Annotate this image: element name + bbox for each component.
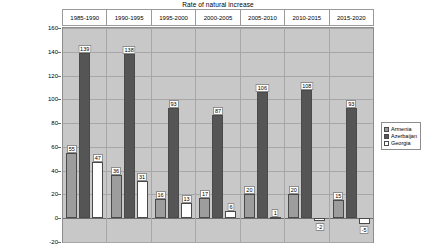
bar-georgia[interactable] [181,203,192,218]
y-axis-tick-mark [58,242,61,243]
bar-value-label: 1 [272,209,279,217]
y-axis-tick-mark [58,147,61,148]
y-axis-tick-label: 120 [18,72,58,78]
y-axis-tick-label: 0 [18,215,58,221]
bar-value-label: 6 [227,203,234,211]
gridline [63,242,373,243]
bar-slot: 138 [124,28,135,242]
y-axis-tick-mark [58,76,61,77]
bar-value-label: 16 [155,191,165,199]
bar-slot: 16 [155,28,166,242]
bar-slot: 106 [257,28,268,242]
y-axis-tick-label: 40 [18,167,58,173]
bar-slot: 31 [137,28,148,242]
y-axis-tick-mark [58,171,61,172]
legend-swatch-icon [384,127,389,132]
y-axis-tick-mark [58,194,61,195]
bar-armenia[interactable] [288,194,299,218]
bar-armenia[interactable] [244,194,255,218]
bar-group: 20108-2 [285,28,329,242]
bar-slot: 108 [301,28,312,242]
y-axis-tick-mark [58,52,61,53]
bar-slot: -2 [314,28,325,242]
y-axis-tick-label: 60 [18,143,58,149]
chart-container: Rate of natural increase 1985-19901990-1… [0,0,440,250]
bar-georgia[interactable] [270,217,281,219]
legend-label: Armenia [391,126,411,132]
bar-groups: 551394736138311693131787620106120108-215… [63,28,373,242]
bar-group: 3613831 [107,28,151,242]
y-axis-tick-mark [58,123,61,124]
y-axis-tick-label: 100 [18,96,58,102]
bar-group-bars: 169313 [152,28,195,242]
bar-georgia[interactable] [314,218,325,220]
y-axis-tick-mark [58,99,61,100]
bar-azerbaijan[interactable] [301,90,312,218]
bar-value-label: 47 [93,154,103,162]
bar-slot: 55 [66,28,77,242]
bar-armenia[interactable] [111,175,122,218]
bar-slot: 20 [244,28,255,242]
bar-group-bars: 20108-2 [285,28,328,242]
plot-area: 551394736138311693131787620106120108-215… [62,27,374,243]
bar-group-bars: 1593-5 [330,28,373,242]
bar-georgia[interactable] [137,181,148,218]
bar-value-label: 93 [168,100,178,108]
legend-item-armenia[interactable]: Armenia [384,126,417,132]
bar-georgia[interactable] [359,218,370,224]
bar-azerbaijan[interactable] [124,54,135,218]
bar-armenia[interactable] [199,198,210,218]
bar-value-label: 106 [256,84,269,92]
y-axis-tick-label: 160 [18,25,58,31]
bar-group: 5513947 [63,28,107,242]
bar-georgia[interactable] [92,162,103,218]
bar-group-bars: 201061 [241,28,284,242]
bar-group-bars: 5513947 [63,28,106,242]
bar-group-bars: 3613831 [107,28,150,242]
bar-value-label: 138 [123,46,136,54]
bar-value-label: 31 [137,173,147,181]
period-header-cell: 2005-2010 [241,10,285,25]
legend-label: Georgia [391,140,411,146]
bar-value-label: -2 [315,223,324,231]
bar-armenia[interactable] [333,200,344,218]
bar-value-label: -5 [360,226,369,234]
y-axis-tick-label: 140 [18,48,58,54]
y-axis-tick-label: -20 [18,239,58,245]
legend-item-azerbaijan[interactable]: Azerbaijan [384,133,417,139]
bar-slot: 20 [288,28,299,242]
legend-item-georgia[interactable]: Georgia [384,140,417,146]
legend-swatch-icon [384,141,389,146]
bar-value-label: 108 [300,82,313,90]
bar-azerbaijan[interactable] [257,92,268,218]
bar-group-bars: 17876 [196,28,239,242]
bar-slot: 87 [212,28,223,242]
y-axis-tick-mark [58,218,61,219]
bar-armenia[interactable] [155,199,166,218]
bar-azerbaijan[interactable] [346,108,357,219]
bar-slot: 47 [92,28,103,242]
bar-azerbaijan[interactable] [79,53,90,218]
bar-azerbaijan[interactable] [212,115,223,218]
y-axis-tick-mark [58,28,61,29]
bar-group: 201061 [241,28,285,242]
bar-slot: 15 [333,28,344,242]
bar-slot: 13 [181,28,192,242]
period-header-cell: 2000-2005 [196,10,240,25]
period-header-cell: 1995-2000 [152,10,196,25]
bar-slot: 93 [168,28,179,242]
chart-title: Rate of natural increase [62,1,374,8]
bar-slot: -5 [359,28,370,242]
y-axis-tick-label: 20 [18,191,58,197]
legend-swatch-icon [384,134,389,139]
bar-georgia[interactable] [225,211,236,218]
bar-value-label: 87 [213,107,223,115]
period-header-cell: 2010-2015 [285,10,329,25]
bar-group: 169313 [152,28,196,242]
bar-value-label: 139 [78,45,91,53]
bar-value-label: 15 [333,192,343,200]
y-axis-tick-label: 80 [18,120,58,126]
period-header-row: 1985-19901990-19951995-20002000-20052005… [62,9,374,26]
bar-armenia[interactable] [66,153,77,218]
bar-azerbaijan[interactable] [168,108,179,219]
